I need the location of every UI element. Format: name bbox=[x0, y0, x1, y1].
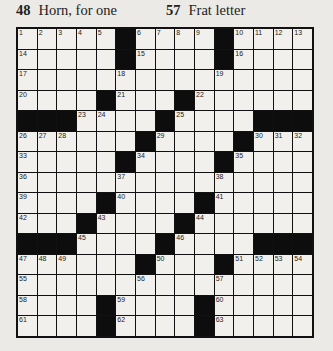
grid-cell[interactable]: 24 bbox=[97, 111, 116, 131]
grid-cell[interactable] bbox=[175, 70, 194, 90]
grid-cell[interactable] bbox=[195, 173, 214, 193]
grid-cell[interactable] bbox=[274, 296, 293, 316]
grid-cell[interactable] bbox=[97, 50, 116, 70]
grid-cell[interactable]: 5 bbox=[97, 29, 116, 49]
grid-cell[interactable] bbox=[38, 152, 57, 172]
grid-cell[interactable] bbox=[234, 193, 253, 213]
grid-cell[interactable]: 2 bbox=[38, 29, 57, 49]
grid-cell[interactable] bbox=[293, 50, 312, 70]
grid-cell[interactable] bbox=[136, 70, 155, 90]
grid-cell[interactable]: 9 bbox=[195, 29, 214, 49]
grid-cell[interactable] bbox=[175, 50, 194, 70]
grid-cell[interactable]: 54 bbox=[293, 255, 312, 275]
grid-cell[interactable] bbox=[156, 173, 175, 193]
grid-cell[interactable] bbox=[254, 296, 273, 316]
grid-cell[interactable] bbox=[175, 193, 194, 213]
grid-cell[interactable] bbox=[97, 70, 116, 90]
grid-cell[interactable] bbox=[254, 316, 273, 336]
grid-cell[interactable] bbox=[116, 111, 135, 131]
grid-cell[interactable] bbox=[293, 296, 312, 316]
grid-cell[interactable] bbox=[195, 70, 214, 90]
grid-cell[interactable] bbox=[215, 234, 234, 254]
grid-cell[interactable]: 62 bbox=[116, 316, 135, 336]
grid-cell[interactable]: 8 bbox=[175, 29, 194, 49]
grid-cell[interactable]: 3 bbox=[57, 29, 76, 49]
grid-cell[interactable] bbox=[195, 234, 214, 254]
grid-cell[interactable]: 15 bbox=[136, 50, 155, 70]
grid-cell[interactable]: 44 bbox=[195, 214, 214, 234]
grid-cell[interactable] bbox=[195, 132, 214, 152]
grid-cell[interactable] bbox=[254, 275, 273, 295]
grid-cell[interactable] bbox=[175, 173, 194, 193]
grid-cell[interactable] bbox=[136, 193, 155, 213]
grid-cell[interactable] bbox=[254, 214, 273, 234]
grid-cell[interactable] bbox=[274, 214, 293, 234]
grid-cell[interactable]: 23 bbox=[77, 111, 96, 131]
grid-cell[interactable] bbox=[116, 214, 135, 234]
grid-cell[interactable] bbox=[57, 316, 76, 336]
grid-cell[interactable] bbox=[97, 255, 116, 275]
grid-cell[interactable] bbox=[38, 193, 57, 213]
grid-cell[interactable] bbox=[38, 275, 57, 295]
grid-cell[interactable] bbox=[274, 193, 293, 213]
grid-cell[interactable]: 12 bbox=[274, 29, 293, 49]
grid-cell[interactable] bbox=[175, 132, 194, 152]
grid-cell[interactable] bbox=[156, 70, 175, 90]
grid-cell[interactable] bbox=[234, 173, 253, 193]
grid-cell[interactable] bbox=[57, 214, 76, 234]
grid-cell[interactable] bbox=[77, 132, 96, 152]
grid-cell[interactable] bbox=[175, 255, 194, 275]
grid-cell[interactable] bbox=[97, 275, 116, 295]
grid-cell[interactable]: 18 bbox=[116, 70, 135, 90]
grid-cell[interactable]: 46 bbox=[175, 234, 194, 254]
grid-cell[interactable] bbox=[274, 173, 293, 193]
grid-cell[interactable]: 14 bbox=[18, 50, 37, 70]
grid-cell[interactable] bbox=[97, 234, 116, 254]
grid-cell[interactable]: 22 bbox=[195, 91, 214, 111]
grid-cell[interactable] bbox=[195, 152, 214, 172]
grid-cell[interactable] bbox=[116, 255, 135, 275]
grid-cell[interactable]: 21 bbox=[116, 91, 135, 111]
grid-cell[interactable] bbox=[175, 296, 194, 316]
grid-cell[interactable] bbox=[293, 316, 312, 336]
grid-cell[interactable] bbox=[57, 50, 76, 70]
grid-cell[interactable] bbox=[175, 275, 194, 295]
grid-cell[interactable] bbox=[254, 91, 273, 111]
grid-cell[interactable]: 42 bbox=[18, 214, 37, 234]
grid-cell[interactable]: 7 bbox=[156, 29, 175, 49]
grid-cell[interactable]: 53 bbox=[274, 255, 293, 275]
grid-cell[interactable]: 13 bbox=[293, 29, 312, 49]
grid-cell[interactable] bbox=[293, 152, 312, 172]
grid-cell[interactable]: 20 bbox=[18, 91, 37, 111]
grid-cell[interactable] bbox=[38, 50, 57, 70]
grid-cell[interactable] bbox=[215, 132, 234, 152]
grid-cell[interactable]: 11 bbox=[254, 29, 273, 49]
grid-cell[interactable] bbox=[293, 91, 312, 111]
grid-cell[interactable]: 48 bbox=[38, 255, 57, 275]
grid-cell[interactable] bbox=[77, 296, 96, 316]
grid-cell[interactable]: 56 bbox=[136, 275, 155, 295]
grid-cell[interactable]: 1 bbox=[18, 29, 37, 49]
grid-cell[interactable] bbox=[97, 152, 116, 172]
grid-cell[interactable]: 26 bbox=[18, 132, 37, 152]
grid-cell[interactable] bbox=[136, 91, 155, 111]
grid-cell[interactable] bbox=[254, 193, 273, 213]
grid-cell[interactable] bbox=[195, 255, 214, 275]
grid-cell[interactable] bbox=[77, 152, 96, 172]
grid-cell[interactable] bbox=[293, 70, 312, 90]
grid-cell[interactable]: 38 bbox=[215, 173, 234, 193]
grid-cell[interactable] bbox=[234, 275, 253, 295]
grid-cell[interactable] bbox=[136, 316, 155, 336]
grid-cell[interactable]: 31 bbox=[274, 132, 293, 152]
grid-cell[interactable] bbox=[77, 173, 96, 193]
grid-cell[interactable]: 45 bbox=[77, 234, 96, 254]
grid-cell[interactable] bbox=[234, 214, 253, 234]
grid-cell[interactable] bbox=[234, 234, 253, 254]
grid-cell[interactable] bbox=[77, 50, 96, 70]
grid-cell[interactable] bbox=[293, 214, 312, 234]
grid-cell[interactable] bbox=[293, 173, 312, 193]
grid-cell[interactable] bbox=[97, 173, 116, 193]
grid-cell[interactable]: 4 bbox=[77, 29, 96, 49]
grid-cell[interactable]: 29 bbox=[156, 132, 175, 152]
grid-cell[interactable] bbox=[293, 275, 312, 295]
